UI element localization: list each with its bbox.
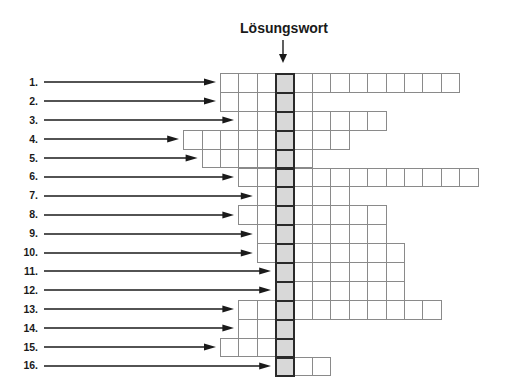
solution-cell[interactable]: [275, 281, 294, 302]
letter-cell[interactable]: [386, 73, 405, 93]
letter-cell[interactable]: [257, 168, 276, 188]
letter-cell[interactable]: [330, 168, 349, 188]
letter-cell[interactable]: [294, 357, 313, 377]
letter-cell[interactable]: [330, 111, 349, 131]
letter-cell[interactable]: [294, 243, 313, 263]
letter-cell[interactable]: [441, 73, 460, 93]
letter-cell[interactable]: [349, 111, 368, 131]
letter-cell[interactable]: [312, 130, 331, 150]
letter-cell[interactable]: [238, 205, 257, 225]
solution-cell[interactable]: [275, 338, 294, 359]
letter-cell[interactable]: [294, 300, 313, 320]
letter-cell[interactable]: [349, 168, 368, 188]
letter-cell[interactable]: [294, 205, 313, 225]
letter-cell[interactable]: [330, 205, 349, 225]
letter-cell[interactable]: [422, 168, 441, 188]
solution-cell[interactable]: [275, 92, 294, 113]
letter-cell[interactable]: [404, 300, 423, 320]
letter-cell[interactable]: [294, 111, 313, 131]
letter-cell[interactable]: [257, 92, 276, 112]
letter-cell[interactable]: [312, 357, 331, 377]
letter-cell[interactable]: [312, 281, 331, 301]
letter-cell[interactable]: [330, 130, 349, 150]
letter-cell[interactable]: [349, 243, 368, 263]
letter-cell[interactable]: [330, 73, 349, 93]
letter-cell[interactable]: [386, 300, 405, 320]
letter-cell[interactable]: [257, 338, 276, 358]
letter-cell[interactable]: [257, 300, 276, 320]
letter-cell[interactable]: [257, 243, 276, 263]
solution-cell[interactable]: [275, 168, 294, 189]
letter-cell[interactable]: [257, 130, 276, 150]
letter-cell[interactable]: [220, 92, 239, 112]
letter-cell[interactable]: [238, 168, 257, 188]
letter-cell[interactable]: [312, 205, 331, 225]
letter-cell[interactable]: [312, 73, 331, 93]
letter-cell[interactable]: [349, 205, 368, 225]
letter-cell[interactable]: [330, 300, 349, 320]
letter-cell[interactable]: [238, 73, 257, 93]
solution-cell[interactable]: [275, 357, 294, 378]
letter-cell[interactable]: [238, 300, 257, 320]
letter-cell[interactable]: [386, 168, 405, 188]
letter-cell[interactable]: [257, 205, 276, 225]
letter-cell[interactable]: [238, 319, 257, 339]
letter-cell[interactable]: [220, 338, 239, 358]
solution-cell[interactable]: [275, 149, 294, 170]
letter-cell[interactable]: [294, 149, 313, 169]
letter-cell[interactable]: [257, 149, 276, 169]
letter-cell[interactable]: [257, 186, 276, 206]
letter-cell[interactable]: [367, 281, 386, 301]
letter-cell[interactable]: [367, 168, 386, 188]
letter-cell[interactable]: [257, 111, 276, 131]
letter-cell[interactable]: [294, 73, 313, 93]
letter-cell[interactable]: [312, 186, 331, 206]
letter-cell[interactable]: [257, 224, 276, 244]
letter-cell[interactable]: [386, 262, 405, 282]
letter-cell[interactable]: [294, 92, 313, 112]
solution-cell[interactable]: [275, 205, 294, 226]
solution-cell[interactable]: [275, 243, 294, 264]
letter-cell[interactable]: [367, 73, 386, 93]
letter-cell[interactable]: [220, 73, 239, 93]
letter-cell[interactable]: [238, 338, 257, 358]
letter-cell[interactable]: [312, 243, 331, 263]
letter-cell[interactable]: [294, 262, 313, 282]
letter-cell[interactable]: [294, 281, 313, 301]
letter-cell[interactable]: [330, 262, 349, 282]
letter-cell[interactable]: [367, 243, 386, 263]
letter-cell[interactable]: [330, 281, 349, 301]
solution-cell[interactable]: [275, 186, 294, 207]
letter-cell[interactable]: [404, 168, 423, 188]
solution-cell[interactable]: [275, 319, 294, 340]
letter-cell[interactable]: [257, 73, 276, 93]
letter-cell[interactable]: [294, 130, 313, 150]
letter-cell[interactable]: [386, 281, 405, 301]
letter-cell[interactable]: [312, 224, 331, 244]
letter-cell[interactable]: [330, 186, 349, 206]
letter-cell[interactable]: [422, 73, 441, 93]
letter-cell[interactable]: [312, 262, 331, 282]
letter-cell[interactable]: [294, 168, 313, 188]
letter-cell[interactable]: [422, 300, 441, 320]
solution-cell[interactable]: [275, 300, 294, 321]
letter-cell[interactable]: [386, 243, 405, 263]
letter-cell[interactable]: [330, 243, 349, 263]
letter-cell[interactable]: [183, 130, 202, 150]
letter-cell[interactable]: [349, 300, 368, 320]
letter-cell[interactable]: [349, 281, 368, 301]
solution-cell[interactable]: [275, 73, 294, 94]
letter-cell[interactable]: [367, 224, 386, 244]
letter-cell[interactable]: [459, 168, 478, 188]
letter-cell[interactable]: [238, 149, 257, 169]
solution-cell[interactable]: [275, 130, 294, 151]
letter-cell[interactable]: [367, 300, 386, 320]
letter-cell[interactable]: [367, 205, 386, 225]
solution-cell[interactable]: [275, 111, 294, 132]
letter-cell[interactable]: [349, 73, 368, 93]
letter-cell[interactable]: [330, 224, 349, 244]
letter-cell[interactable]: [404, 73, 423, 93]
solution-cell[interactable]: [275, 262, 294, 283]
letter-cell[interactable]: [238, 130, 257, 150]
letter-cell[interactable]: [202, 149, 221, 169]
